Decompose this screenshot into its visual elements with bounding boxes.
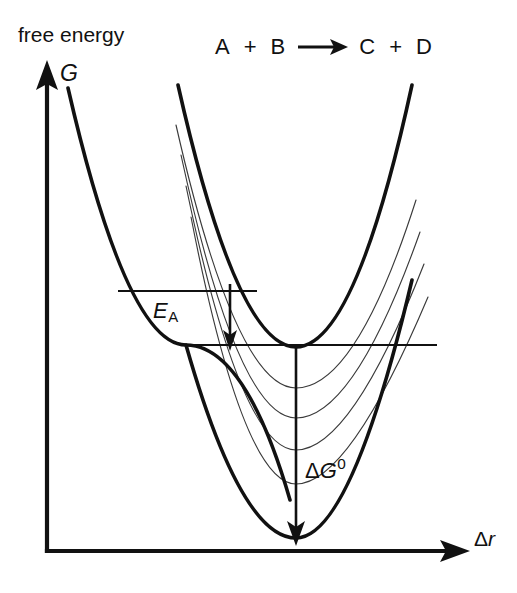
x-axis-symbol: Δr bbox=[474, 528, 495, 549]
y-axis-symbol: G bbox=[60, 62, 78, 85]
y-axis-title: free energy bbox=[18, 24, 124, 45]
reactant-parabola-path bbox=[68, 88, 290, 500]
product-1: C bbox=[352, 34, 382, 60]
free-energy-change-superscript: 0 bbox=[337, 455, 346, 472]
activation-energy-label: EA bbox=[153, 300, 178, 322]
activation-energy-subscript: A bbox=[168, 308, 178, 325]
free-energy-change-symbol: G bbox=[320, 458, 337, 483]
product-parabola-path bbox=[186, 280, 412, 538]
reactant-1: A bbox=[208, 34, 237, 60]
free-energy-diagram: free energy G Δr EA ΔG0 A + B C + D bbox=[0, 0, 517, 593]
plus-sign-1: + bbox=[237, 34, 264, 60]
free-energy-change-arrow bbox=[287, 347, 305, 546]
transition-parabola-path bbox=[178, 85, 412, 347]
free-energy-change-delta: Δ bbox=[305, 458, 320, 483]
reaction-equation: A + B C + D bbox=[208, 34, 439, 60]
reaction-arrow-icon bbox=[296, 36, 348, 58]
free-energy-change-label: ΔG0 bbox=[305, 460, 345, 482]
x-axis-delta: Δ bbox=[474, 527, 488, 550]
product-2: D bbox=[409, 34, 439, 60]
activation-energy-symbol: E bbox=[153, 298, 168, 323]
plus-sign-2: + bbox=[382, 34, 409, 60]
diagram-canvas bbox=[0, 0, 517, 593]
intermediate-parabola-3-path bbox=[186, 186, 424, 450]
x-axis-variable: r bbox=[488, 527, 495, 550]
reactant-2: B bbox=[264, 34, 293, 60]
